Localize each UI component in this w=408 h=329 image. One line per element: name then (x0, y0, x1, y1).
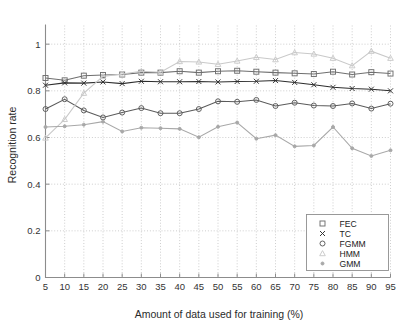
y-tick-label: 0.4 (27, 179, 40, 190)
x-tick-label: 85 (347, 281, 358, 292)
series-marker (255, 137, 258, 140)
x-tick-label: 95 (385, 281, 396, 292)
series-marker (82, 123, 85, 126)
series-line (46, 99, 391, 117)
x-tick-label: 20 (98, 281, 109, 292)
y-tick-label: 0 (35, 272, 40, 283)
x-tick-label: 50 (213, 281, 224, 292)
series-marker (312, 144, 315, 147)
x-tick-label: 30 (136, 281, 147, 292)
legend-label: FGMM (340, 239, 366, 249)
y-axis-title: Recognition rate (6, 107, 18, 184)
x-tick-label: 90 (366, 281, 377, 292)
x-axis-title: Amount of data used for training (%) (135, 308, 304, 320)
x-tick-label: 60 (251, 281, 262, 292)
series-marker (102, 120, 105, 123)
chart-figure: 00.20.40.60.8151015202530354045505560657… (0, 0, 408, 329)
legend-marker-dot-icon (321, 262, 324, 265)
series-marker (63, 125, 66, 128)
recognition-rate-line-chart: 00.20.40.60.8151015202530354045505560657… (0, 0, 408, 329)
series-marker (332, 126, 335, 129)
series-marker (351, 147, 354, 150)
x-tick-label: 5 (43, 281, 48, 292)
x-tick-label: 15 (79, 281, 90, 292)
series-marker (389, 149, 392, 152)
series-marker (44, 126, 47, 129)
series-marker (197, 136, 200, 139)
x-tick-label: 75 (309, 281, 320, 292)
x-tick-label: 40 (174, 281, 185, 292)
x-tick-label: 80 (328, 281, 339, 292)
series-marker (140, 126, 143, 129)
y-tick-label: 1 (35, 39, 40, 50)
legend-label: GMM (340, 259, 361, 269)
legend-label: HMM (340, 249, 361, 259)
legend-label: TC (340, 229, 351, 239)
x-tick-label: 10 (59, 281, 70, 292)
y-tick-label: 0.2 (27, 225, 40, 236)
data-series (43, 48, 394, 157)
x-tick-label: 25 (117, 281, 128, 292)
chart-canvas: 00.20.40.60.8151015202530354045505560657… (0, 0, 408, 329)
chart-legend[interactable]: FECTCFGMMHMMGMM (307, 215, 389, 271)
y-tick-label: 0.6 (27, 132, 40, 143)
series-marker (178, 127, 181, 130)
series-marker (236, 121, 239, 124)
series-marker (274, 134, 277, 137)
x-tick-label: 35 (155, 281, 166, 292)
series-marker (217, 125, 220, 128)
y-tick-label: 0.8 (27, 85, 40, 96)
series-marker (159, 127, 162, 130)
legend-label: FEC (340, 219, 357, 229)
series-marker (121, 130, 124, 133)
x-tick-label: 45 (194, 281, 205, 292)
series-fgmm (43, 97, 393, 120)
x-tick-label: 65 (270, 281, 281, 292)
x-tick-label: 55 (232, 281, 243, 292)
series-marker (293, 145, 296, 148)
series-marker (370, 154, 373, 157)
x-tick-label: 70 (289, 281, 300, 292)
